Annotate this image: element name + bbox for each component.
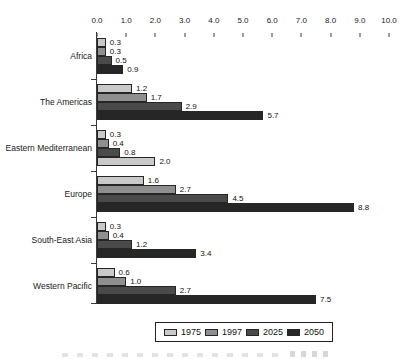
bar-value-label: 0.8 — [124, 148, 135, 157]
category-label: The Americas — [0, 97, 92, 107]
bar — [97, 38, 106, 47]
axis-tick-label: 7.0 — [296, 16, 307, 25]
bar — [97, 268, 115, 277]
bar-row: 1.6 — [97, 176, 389, 185]
cut-off-caption-remnant — [290, 351, 334, 357]
bar — [97, 65, 123, 74]
bar-row: 4.5 — [97, 194, 389, 203]
bar-row: 2.0 — [97, 157, 389, 166]
bar-value-label: 1.6 — [148, 176, 159, 185]
legend-swatch — [205, 329, 218, 336]
bar-value-label: 1.2 — [136, 240, 147, 249]
category-label: Africa — [0, 51, 92, 61]
axis-tick-label: 6.0 — [267, 16, 278, 25]
bar-group: The Americas1.21.72.95.7 — [97, 84, 389, 120]
bar-value-label: 0.4 — [113, 139, 124, 148]
bar-value-label: 2.7 — [180, 185, 191, 194]
axis-tick-label: 0.0 — [91, 16, 102, 25]
bar — [97, 130, 106, 139]
bar-row: 0.3 — [97, 38, 389, 47]
bar-row: 3.4 — [97, 249, 389, 258]
group-separator-tick — [91, 263, 96, 264]
bar-row: 1.2 — [97, 240, 389, 249]
axis-tick-label: 9.0 — [354, 16, 365, 25]
bar — [97, 148, 120, 157]
axis-tick-label: 4.0 — [208, 16, 219, 25]
bar-value-label: 0.9 — [127, 65, 138, 74]
legend: 1975199720252050 — [155, 322, 333, 342]
axis-tick-label: 1.0 — [121, 16, 132, 25]
legend-item: 1997 — [205, 327, 242, 337]
bar-row: 5.7 — [97, 111, 389, 120]
bar-value-label: 4.5 — [232, 194, 243, 203]
bar — [97, 231, 109, 240]
legend-item: 1975 — [164, 327, 201, 337]
bar — [97, 249, 196, 258]
bar-group: Eastern Mediterranean0.30.40.82.0 — [97, 130, 389, 166]
bar — [97, 222, 106, 231]
bar-value-label: 1.2 — [136, 84, 147, 93]
bar — [97, 185, 176, 194]
bar-value-label: 0.6 — [119, 268, 130, 277]
legend-label: 1975 — [181, 327, 201, 337]
bar-row: 0.5 — [97, 56, 389, 65]
bar-chart-figure: 0.01.02.03.04.05.06.07.08.09.010.0 Afric… — [0, 0, 412, 359]
category-label: South-East Asia — [0, 235, 92, 245]
bar — [97, 277, 126, 286]
plot-area: Africa0.30.30.50.9The Americas1.21.72.95… — [97, 33, 389, 304]
axis-tick-label: 10.0 — [381, 16, 397, 25]
cut-off-caption-remnant — [62, 353, 280, 357]
bar-row: 8.8 — [97, 203, 389, 212]
category-label: Europe — [0, 189, 92, 199]
bar-value-label: 1.0 — [130, 277, 141, 286]
legend-swatch — [246, 329, 259, 336]
bar-row: 0.3 — [97, 130, 389, 139]
bar — [97, 102, 182, 111]
bar-group: South-East Asia0.30.41.23.4 — [97, 222, 389, 258]
legend-item: 2050 — [287, 327, 324, 337]
bar-group: Africa0.30.30.50.9 — [97, 38, 389, 74]
bar-value-label: 0.3 — [110, 47, 121, 56]
bar-row: 2.7 — [97, 286, 389, 295]
legend-swatch — [287, 329, 300, 336]
bar-row: 0.6 — [97, 268, 389, 277]
bar-value-label: 8.8 — [358, 203, 369, 212]
legend-item: 2025 — [246, 327, 283, 337]
bar-row: 1.7 — [97, 93, 389, 102]
bar — [97, 157, 155, 166]
bar-row: 1.0 — [97, 277, 389, 286]
group-separator-tick — [91, 217, 96, 218]
bar-value-label: 0.4 — [113, 231, 124, 240]
group-separator-tick — [91, 125, 96, 126]
group-separator-tick — [91, 79, 96, 80]
bar-value-label: 0.5 — [116, 56, 127, 65]
bar — [97, 286, 176, 295]
y-axis-end-tick — [91, 303, 96, 304]
bar-value-label: 1.7 — [151, 93, 162, 102]
bar — [97, 56, 112, 65]
bar-value-label: 7.5 — [320, 295, 331, 304]
bar — [97, 93, 147, 102]
bar — [97, 111, 263, 120]
legend-swatch — [164, 329, 177, 336]
bar-value-label: 2.7 — [180, 286, 191, 295]
bar-row: 7.5 — [97, 295, 389, 304]
bar-row: 0.4 — [97, 139, 389, 148]
bar-row: 2.9 — [97, 102, 389, 111]
bar — [97, 84, 132, 93]
bar-value-label: 0.3 — [110, 222, 121, 231]
bar — [97, 139, 109, 148]
bar-row: 0.3 — [97, 47, 389, 56]
axis-tick-label: 8.0 — [325, 16, 336, 25]
bar-row: 0.4 — [97, 231, 389, 240]
bar-row: 0.9 — [97, 65, 389, 74]
axis-tick-label: 5.0 — [237, 16, 248, 25]
axis-tick-label: 2.0 — [150, 16, 161, 25]
bar-group: Western Pacific0.61.02.77.5 — [97, 268, 389, 304]
bar-value-label: 3.4 — [200, 249, 211, 258]
bar — [97, 47, 106, 56]
bar — [97, 203, 354, 212]
bar-value-label: 0.3 — [110, 38, 121, 47]
bar — [97, 194, 228, 203]
bar-value-label: 2.0 — [159, 157, 170, 166]
